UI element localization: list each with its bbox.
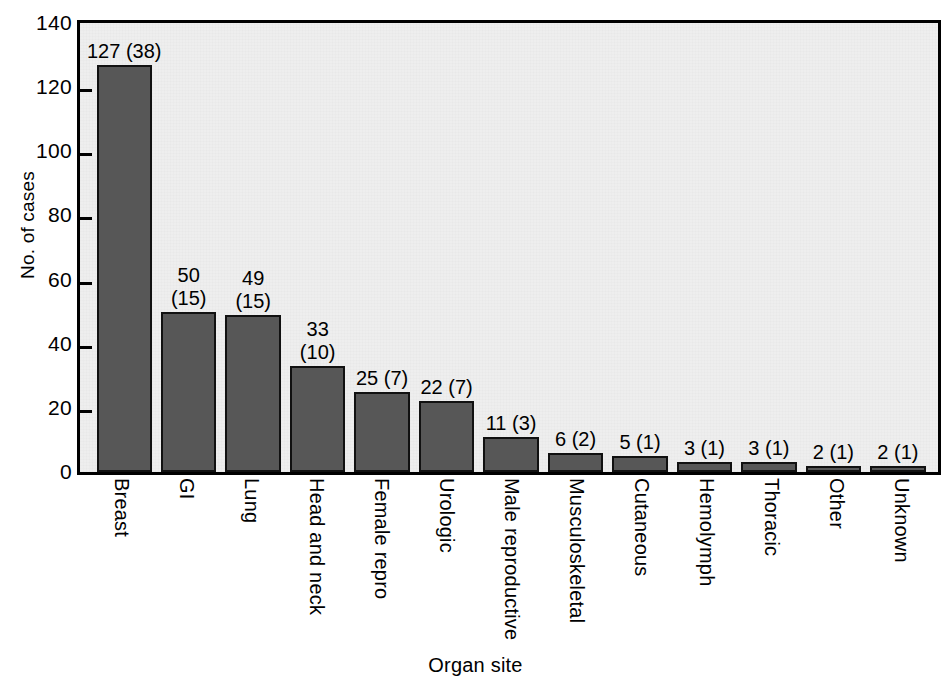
y-axis-tick-label: 0 (10, 461, 72, 482)
bar-series: 127 (38)50 (15)49 (15)33 (10)25 (7)22 (7… (80, 23, 938, 472)
x-axis-tick-label-slot: Male reproductive (479, 478, 544, 628)
bar-item[interactable]: 127 (38) (92, 23, 156, 472)
x-axis-tick-label-slot: GI (154, 478, 219, 628)
y-axis-tick-label: 140 (10, 12, 72, 33)
x-axis-tick-label: Lung (240, 478, 263, 523)
x-axis-tick-label: Male reproductive (499, 478, 522, 640)
x-axis-tick-label: Thoracic (759, 478, 782, 556)
y-axis-tick-label: 40 (10, 333, 72, 354)
bar-rect[interactable] (548, 453, 603, 472)
x-axis-tick-label: Hemolymph (694, 478, 717, 587)
x-axis-tick-label-slot: Thoracic (738, 478, 803, 628)
y-axis-tick-label: 120 (10, 76, 72, 97)
x-axis-tick-label: Head and neck (305, 478, 328, 615)
bar-item[interactable]: 11 (3) (479, 23, 543, 472)
bar-item[interactable]: 25 (7) (350, 23, 414, 472)
x-axis-tick-label-slot: Musculoskeletal (543, 478, 608, 628)
bar-item[interactable]: 50 (15) (156, 23, 220, 472)
bar-item[interactable]: 49 (15) (221, 23, 285, 472)
x-axis-tick-label: GI (175, 478, 198, 500)
bar-rect[interactable] (677, 462, 732, 472)
bar-item[interactable]: 5 (1) (608, 23, 672, 472)
x-axis-tick-label-slot: Head and neck (284, 478, 349, 628)
x-axis-tick-label-slot: Other (803, 478, 868, 628)
bar-rect[interactable] (161, 312, 216, 472)
x-axis-tick-label-slot: Female repro (349, 478, 414, 628)
bar-rect[interactable] (870, 466, 925, 472)
bar-rect[interactable] (741, 462, 796, 472)
x-axis-tick-label: Breast (110, 478, 133, 537)
plot-area: 127 (38)50 (15)49 (15)33 (10)25 (7)22 (7… (77, 20, 941, 475)
x-axis-tick-labels: BreastGILungHead and neckFemale reproUro… (77, 478, 941, 628)
y-axis-tick-label: 20 (10, 397, 72, 418)
x-axis-title: Organ site (0, 654, 951, 677)
bar-item[interactable]: 2 (1) (801, 23, 865, 472)
bar-item[interactable]: 6 (2) (543, 23, 607, 472)
x-axis-tick-label: Urologic (435, 478, 458, 553)
x-axis-tick-label-slot: Breast (89, 478, 154, 628)
y-axis-tick-label: 100 (10, 140, 72, 161)
y-axis-tick-label: 60 (10, 269, 72, 290)
x-axis-tick-label-slot: Cutaneous (608, 478, 673, 628)
x-axis-tick-label: Cutaneous (629, 478, 652, 577)
y-axis-tick-labels: 140120100806040200 (10, 0, 72, 695)
x-axis-tick-label: Other (824, 478, 847, 529)
x-axis-tick-label-slot: Unknown (868, 478, 933, 628)
x-axis-tick-label-slot: Hemolymph (673, 478, 738, 628)
bar-rect[interactable] (354, 392, 409, 472)
bar-item[interactable]: 33 (10) (285, 23, 349, 472)
bar-chart-figure: No. of cases 140120100806040200 127 (38)… (0, 0, 951, 695)
y-axis-tick-label: 80 (10, 204, 72, 225)
bar-item[interactable]: 22 (7) (414, 23, 478, 472)
bar-value-label: 2 (1) (813, 441, 951, 464)
x-axis-tick-label: Musculoskeletal (564, 478, 587, 623)
bar-rect[interactable] (806, 466, 861, 472)
x-axis-tick-label: Unknown (889, 478, 912, 563)
bar-item[interactable]: 3 (1) (737, 23, 801, 472)
bar-item[interactable]: 2 (1) (866, 23, 930, 472)
x-axis-tick-label: Female repro (370, 478, 393, 599)
x-axis-tick-label-slot: Lung (219, 478, 284, 628)
x-axis-tick-label-slot: Urologic (414, 478, 479, 628)
bar-item[interactable]: 3 (1) (672, 23, 736, 472)
